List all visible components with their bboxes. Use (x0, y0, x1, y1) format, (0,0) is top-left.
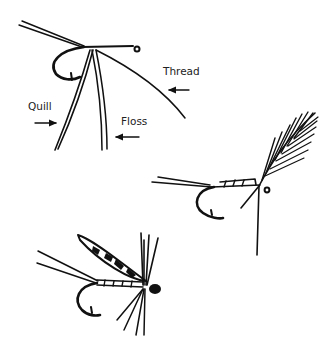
thread-arrow-icon (168, 87, 189, 94)
hook-eye-icon (135, 47, 140, 52)
quill-label: Quill (28, 101, 52, 112)
floss-arrow-icon (115, 134, 139, 141)
quill-arrow-icon (35, 120, 57, 127)
annotation-arrows (35, 87, 189, 141)
fly-tying-diagram (0, 0, 333, 359)
thread-label: Thread (163, 66, 200, 77)
floss-label: Floss (121, 116, 147, 127)
stage-2-body-hackle (152, 112, 318, 255)
stage-3-finished-fly (37, 233, 161, 335)
stage-1-materials (19, 21, 185, 150)
